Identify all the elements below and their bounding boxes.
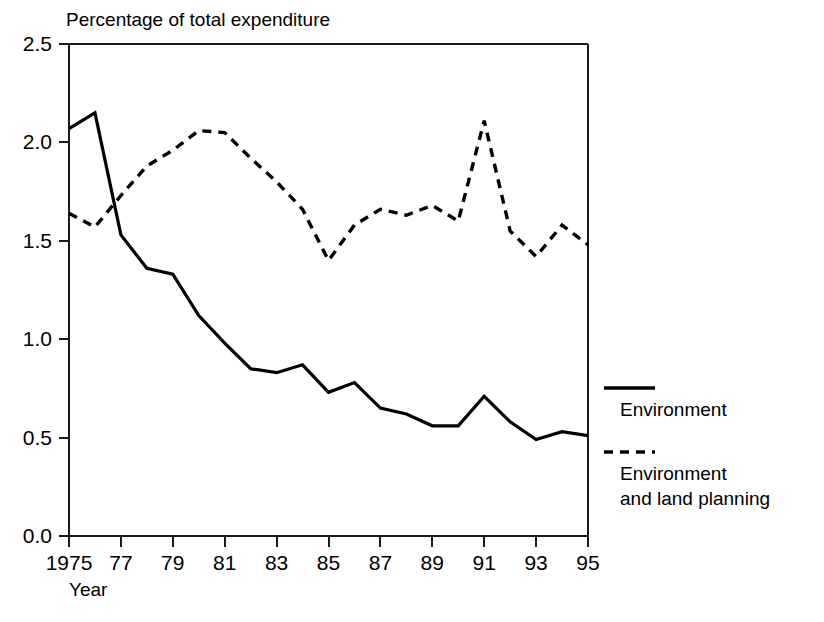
x-axis-ticks: 197577798183858789919395 [46,536,600,574]
x-tick-label: 81 [213,551,236,574]
expenditure-line-chart: Percentage of total expenditure 0.00.51.… [0,0,824,622]
y-tick-label: 2.5 [23,32,52,55]
legend-label-environment-land-planning-line2: and land planning [620,488,770,509]
y-tick-label: 0.0 [23,524,52,547]
y-tick-label: 2.0 [23,130,52,153]
y-tick-label: 1.0 [23,327,52,350]
x-tick-label: 85 [317,551,340,574]
series-line-environment [69,113,588,440]
y-tick-label: 0.5 [23,426,52,449]
y-axis: 0.00.51.01.52.02.5 [23,32,69,547]
legend-label-environment-land-planning-line1: Environment [620,463,727,484]
x-axis-title: Year [69,579,108,600]
y-axis-ticks: 0.00.51.01.52.02.5 [23,32,69,547]
x-tick-label: 93 [524,551,547,574]
x-tick-label: 83 [265,551,288,574]
x-tick-label: 87 [369,551,392,574]
chart-title: Percentage of total expenditure [66,9,330,30]
x-axis: 197577798183858789919395 [46,536,600,574]
chart-container: Percentage of total expenditure 0.00.51.… [0,0,824,622]
legend-label-environment: Environment [620,399,727,420]
chart-legend: Environment Environment and land plannin… [604,388,770,509]
x-tick-label: 1975 [46,551,93,574]
x-tick-label: 91 [473,551,496,574]
x-tick-label: 95 [576,551,599,574]
x-tick-label: 77 [109,551,132,574]
x-tick-label: 89 [421,551,444,574]
data-series-group [69,113,588,440]
x-tick-label: 79 [161,551,184,574]
y-tick-label: 1.5 [23,229,52,252]
series-line-environment-and-land-planning [69,121,588,261]
